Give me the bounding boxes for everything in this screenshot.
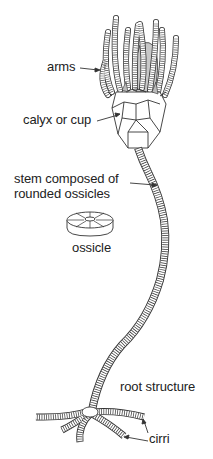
label-cirri: cirri — [149, 432, 169, 446]
label-stem-line2: rounded ossicles — [14, 187, 110, 201]
label-ossicle: ossicle — [72, 241, 111, 255]
label-calyx: calyx or cup — [23, 113, 91, 127]
label-arms: arms — [47, 60, 76, 74]
ossicle-disc — [67, 212, 113, 236]
calyx — [108, 89, 166, 148]
label-root-structure: root structure — [120, 380, 195, 394]
label-stem-line1: stem composed of — [14, 172, 119, 186]
